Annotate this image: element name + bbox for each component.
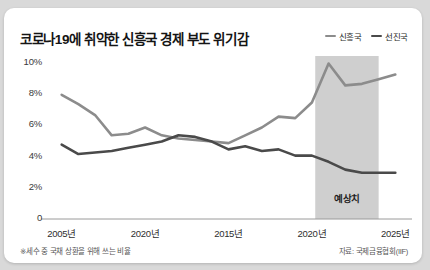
x-axis-tick-label: 2015년 [199, 226, 259, 240]
y-axis-tick-label: 8% [29, 88, 42, 98]
line-chart-svg [4, 8, 422, 263]
chart-source: 자료: 국제금융협회(IIF) [339, 245, 408, 256]
chart-footnote: ※세수 중 국채 상환을 위해 쓰는 비율 [20, 245, 131, 256]
y-axis-tick-label: 4% [29, 151, 42, 161]
screenshot-root: 코로나19에 취약한 신흥국 경제 부도 위기감 신흥국 선진국 02%4%6%… [0, 0, 430, 270]
y-axis-tick: 0 [14, 213, 42, 223]
x-axis-tick-label: 2005년 [32, 226, 92, 240]
x-axis-tick-label: 2020년 [115, 226, 175, 240]
x-axis-tick-label: 2025년 [365, 226, 422, 240]
y-axis-tick-label: 6% [29, 119, 42, 129]
y-axis-tick-label: 0 [37, 213, 42, 223]
y-axis-tick-label: 10% [24, 57, 42, 67]
y-axis-tick: 8% [14, 88, 42, 98]
x-axis-tick-label: 2020년 [282, 226, 342, 240]
chart-card: 코로나19에 취약한 신흥국 경제 부도 위기감 신흥국 선진국 02%4%6%… [4, 8, 422, 263]
y-axis-tick: 10% [14, 57, 42, 67]
y-axis-tick: 2% [14, 182, 42, 192]
y-axis-tick: 4% [14, 151, 42, 161]
y-axis-tick: 6% [14, 119, 42, 129]
y-axis-tick-label: 2% [29, 182, 42, 192]
chart-plot-area: 02%4%6%8%10% 2005년2020년2015년2020년2025년 예… [4, 8, 422, 263]
forecast-region-label: 예상치 [315, 191, 378, 205]
